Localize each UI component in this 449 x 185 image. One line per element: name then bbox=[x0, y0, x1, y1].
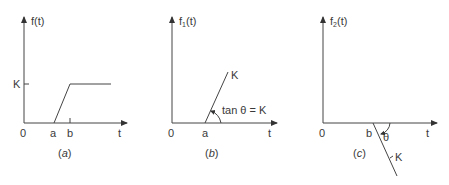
panel-b-y-label: f1(t) bbox=[179, 16, 196, 28]
panel-c-x-label: t bbox=[426, 128, 429, 139]
panel-c-angle-label: θ bbox=[383, 132, 389, 143]
panel-b-slope-annotation: tan θ = K bbox=[222, 105, 266, 116]
panel-a-origin-label: 0 bbox=[20, 128, 26, 139]
panel-b-tick-a-label: a bbox=[202, 128, 208, 139]
panel-a-k-label: K bbox=[13, 79, 20, 90]
panel-b-line-label: K bbox=[231, 70, 238, 81]
panel-c-line-label: K bbox=[395, 152, 402, 163]
panel-a-tick-b-label: b bbox=[67, 128, 73, 139]
panel-a-graph bbox=[24, 17, 127, 123]
panel-a-ramp-curve bbox=[54, 84, 111, 123]
panel-c-graph bbox=[323, 17, 437, 176]
panel-a-tick-a-label: a bbox=[50, 128, 56, 139]
panel-b-x-label: t bbox=[268, 128, 271, 139]
panel-a-caption: (a) bbox=[58, 148, 71, 159]
panel-b-caption: (b) bbox=[205, 148, 218, 159]
panel-c-origin-label: 0 bbox=[319, 128, 325, 139]
panel-a-x-label: t bbox=[118, 128, 121, 139]
panel-a-y-label: f(t) bbox=[31, 16, 44, 27]
panel-b-origin-label: 0 bbox=[168, 128, 174, 139]
panel-c-caption: (c) bbox=[353, 148, 366, 159]
panel-c-k-tick bbox=[390, 156, 393, 158]
panel-b-angle-arc bbox=[211, 111, 221, 123]
panel-c-y-label: f2(t) bbox=[330, 16, 347, 28]
panel-c-tick-b-label: b bbox=[366, 128, 372, 139]
